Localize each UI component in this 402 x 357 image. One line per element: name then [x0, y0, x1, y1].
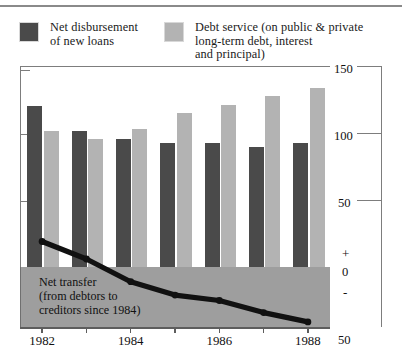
- right-tick-150: [357, 66, 381, 67]
- x-label-1982: 1982: [29, 334, 55, 349]
- bar-1987-disbursement: [249, 147, 264, 268]
- chart-figure: Net disbursement of new loans Debt servi…: [0, 0, 402, 357]
- bar-1982-disbursement: [27, 106, 42, 268]
- plot-area: [20, 66, 330, 267]
- right-tick-100: [357, 133, 381, 134]
- net-transfer-caption: Net transfer (from debtors to creditors …: [39, 275, 140, 318]
- bar-1987-debt-service: [265, 96, 280, 268]
- bar-1986-disbursement: [205, 143, 220, 268]
- right-axis-label-150: 150: [334, 62, 353, 77]
- legend-item-net-disbursement: Net disbursement of new loans: [19, 21, 138, 48]
- legend-swatch-dark: [19, 22, 39, 42]
- x-label-1986: 1986: [206, 334, 232, 349]
- bar-1984-debt-service: [132, 129, 147, 268]
- x-tick-1983: [86, 327, 87, 333]
- bar-1983-debt-service: [88, 139, 103, 268]
- x-label-1984: 1984: [118, 334, 144, 349]
- right-axis-label-minus50: 50: [338, 333, 351, 348]
- bar-group: [21, 67, 331, 268]
- bar-1986-debt-service: [221, 105, 236, 268]
- right-tick-50: [357, 200, 381, 201]
- bar-1983-disbursement: [72, 131, 87, 268]
- legend-label-net-disbursement: Net disbursement of new loans: [50, 21, 138, 48]
- x-tick-1982: [41, 327, 42, 333]
- legend-item-debt-service: Debt service (on public & private long-t…: [164, 21, 363, 62]
- x-tick-1984: [130, 327, 131, 333]
- right-axis-plus-sign: +: [342, 246, 349, 262]
- bar-1982-debt-service: [44, 131, 59, 268]
- right-axis-label-100: 100: [334, 129, 353, 144]
- bar-1988-debt-service: [310, 88, 325, 268]
- x-tick-1988: [307, 327, 308, 333]
- right-axis-label-0: 0: [342, 265, 348, 280]
- x-tick-1985: [174, 327, 175, 333]
- right-axis-minus-sign: -: [343, 285, 347, 301]
- bar-1985-debt-service: [177, 113, 192, 268]
- bar-1985-disbursement: [160, 143, 175, 268]
- x-label-1988: 1988: [295, 334, 321, 349]
- right-axis-label-50: 50: [338, 196, 351, 211]
- legend-label-debt-service: Debt service (on public & private long-t…: [195, 21, 363, 62]
- bar-1984-disbursement: [116, 139, 131, 268]
- x-tick-1986: [219, 327, 220, 333]
- bar-1988-disbursement: [293, 143, 308, 268]
- x-tick-1987: [263, 327, 264, 333]
- legend-swatch-light: [164, 22, 184, 42]
- negative-region-band: Net transfer (from debtors to creditors …: [20, 267, 330, 327]
- chart-legend: Net disbursement of new loans Debt servi…: [0, 14, 402, 64]
- top-divider-rule: [0, 5, 402, 7]
